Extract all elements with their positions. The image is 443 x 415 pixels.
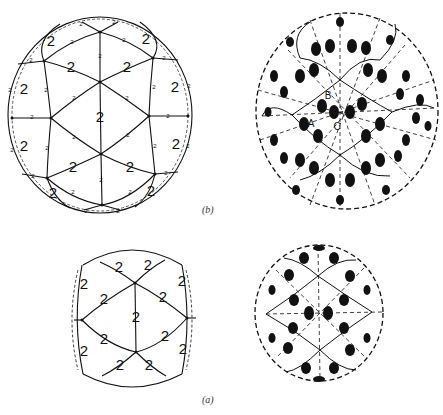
- svg-text:2: 2: [115, 258, 123, 275]
- svg-text:2: 2: [79, 21, 83, 27]
- svg-text:2: 2: [145, 356, 153, 373]
- svg-text:2: 2: [20, 80, 28, 97]
- svg-text:2: 2: [69, 158, 77, 175]
- label-a: A: [308, 118, 315, 129]
- svg-text:2: 2: [125, 95, 129, 101]
- svg-text:2: 2: [98, 53, 102, 59]
- label-c: C: [333, 121, 340, 132]
- svg-text:2: 2: [147, 182, 155, 199]
- svg-text:2: 2: [132, 308, 140, 325]
- svg-text:2: 2: [30, 114, 34, 120]
- svg-text:2: 2: [162, 55, 166, 61]
- svg-text:2: 2: [159, 288, 167, 305]
- svg-text:2: 2: [142, 30, 150, 47]
- svg-text:2: 2: [179, 340, 187, 357]
- svg-text:2: 2: [20, 137, 28, 154]
- svg-text:2: 2: [178, 272, 186, 289]
- svg-text:2: 2: [96, 108, 104, 125]
- svg-text:2: 2: [161, 327, 169, 344]
- svg-text:2: 2: [152, 84, 156, 90]
- svg-text:2: 2: [100, 330, 108, 347]
- caption-b: (b): [202, 204, 214, 215]
- svg-text:2: 2: [99, 177, 103, 183]
- svg-text:2: 2: [153, 143, 157, 149]
- comma-motifs: [265, 17, 432, 205]
- panel-b-motif-sphere: B A C: [256, 13, 438, 209]
- panel-a-motif-sphere: [255, 245, 383, 382]
- svg-text:2: 2: [80, 275, 88, 292]
- figure-canvas: 2 2 2 2 2 2 2 2 2 2 2 2 2 2 2 2 2 2 2 2 …: [0, 0, 443, 415]
- svg-text:2: 2: [67, 58, 75, 75]
- svg-text:2: 2: [72, 95, 76, 101]
- svg-text:2: 2: [126, 158, 134, 175]
- svg-text:2: 2: [80, 342, 88, 359]
- svg-text:2: 2: [49, 184, 57, 201]
- label-b: B: [325, 90, 332, 101]
- svg-text:2: 2: [71, 189, 75, 195]
- svg-text:2: 2: [47, 32, 55, 49]
- svg-text:2: 2: [187, 83, 191, 89]
- caption-a: (a): [202, 394, 214, 405]
- svg-text:2: 2: [116, 356, 124, 373]
- svg-text:2: 2: [172, 135, 180, 152]
- svg-text:2: 2: [186, 143, 190, 149]
- svg-text:2: 2: [123, 58, 131, 75]
- panel-a-graph-labels: 2 2 2 2 2 2 2 2 2 2 2 2 2: [80, 256, 187, 373]
- svg-text:2: 2: [29, 57, 33, 63]
- svg-text:2: 2: [171, 78, 179, 95]
- svg-text:2: 2: [100, 290, 108, 307]
- svg-text:2: 2: [144, 256, 152, 273]
